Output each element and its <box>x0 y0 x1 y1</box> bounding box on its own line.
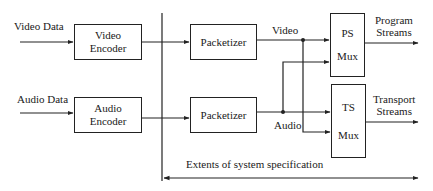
ps-mux-block: PS Mux <box>330 13 365 77</box>
program-streams-line2: Streams <box>375 26 413 38</box>
video-encoder-line1: Video <box>95 29 121 42</box>
transport-streams-line1: Transport <box>373 93 415 105</box>
audio-junction-dot <box>281 110 285 114</box>
audio-encoder-line2: Encoder <box>90 115 127 128</box>
audio-stream-label: Audio <box>274 119 302 131</box>
transport-streams-line2: Streams <box>373 105 415 117</box>
video-encoder-block: Video Encoder <box>74 24 142 60</box>
audio-data-label: Audio Data <box>17 93 68 105</box>
extents-label: Extents of system specification <box>186 158 323 170</box>
video-data-label: Video Data <box>14 20 64 32</box>
audio-encoder-block: Audio Encoder <box>74 97 142 133</box>
audio-packetizer-block: Packetizer <box>190 97 257 133</box>
ps-mux-line1: PS <box>341 27 353 40</box>
program-streams-label: Program Streams <box>375 14 413 38</box>
transport-streams-label: Transport Streams <box>373 93 415 117</box>
audio-encoder-line1: Audio <box>94 102 122 115</box>
ts-mux-line2: Mux <box>338 129 359 142</box>
video-encoder-line2: Encoder <box>90 42 127 55</box>
video-junction-dot <box>301 38 305 42</box>
video-stream-label: Video <box>272 24 298 36</box>
ts-mux-line1: TS <box>342 101 355 114</box>
ts-mux-block: TS Mux <box>331 84 366 158</box>
video-packetizer-block: Packetizer <box>190 24 257 60</box>
program-streams-line1: Program <box>375 14 413 26</box>
video-to-ts-mux-arrow <box>303 40 330 132</box>
audio-to-ps-mux-arrow <box>283 62 329 112</box>
ps-mux-line2: Mux <box>337 50 358 63</box>
